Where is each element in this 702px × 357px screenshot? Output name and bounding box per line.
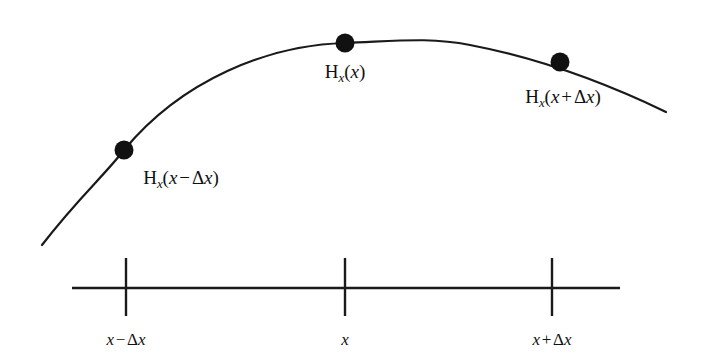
curve-label-center: Hx(x) <box>325 62 366 85</box>
figure-canvas <box>0 0 702 357</box>
point-left-dot <box>115 141 134 160</box>
tick-x-label: x <box>341 331 349 348</box>
point-right-dot <box>551 53 570 72</box>
point-center-dot <box>336 34 355 53</box>
curve-label-left: Hx(x−Δx) <box>143 168 219 191</box>
tick-x-minus-dx-label: x−Δx <box>107 331 146 348</box>
curve-label-right: Hx(x+Δx) <box>525 87 601 110</box>
tick-x-plus-dx-label: x+Δx <box>533 331 572 348</box>
figure-container: Hx(x−Δx)Hx(x)Hx(x+Δx)x−Δxxx+Δx <box>0 0 702 357</box>
